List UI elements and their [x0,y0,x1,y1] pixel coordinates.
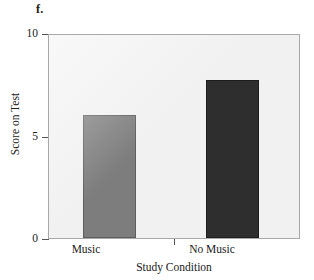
x-axis-category-label-no-music: No Music [176,243,248,256]
bar-music[interactable] [83,115,136,238]
y-axis-tick-label-10: 10 [0,28,38,40]
y-axis-tick-label-0: 0 [0,233,38,245]
x-axis-tick-mark-mid [174,239,175,245]
x-axis-title: Study Condition [48,261,300,273]
x-axis-category-label-music: Music [56,243,116,256]
bar-chart-figure: 10 5 0 Music No Music Study Condition Sc… [0,0,314,280]
y-axis-title: Score on Test [9,64,21,184]
plot-area [48,34,300,239]
bar-no-music[interactable] [206,80,259,238]
y-axis-tick-mark-0 [42,239,49,240]
